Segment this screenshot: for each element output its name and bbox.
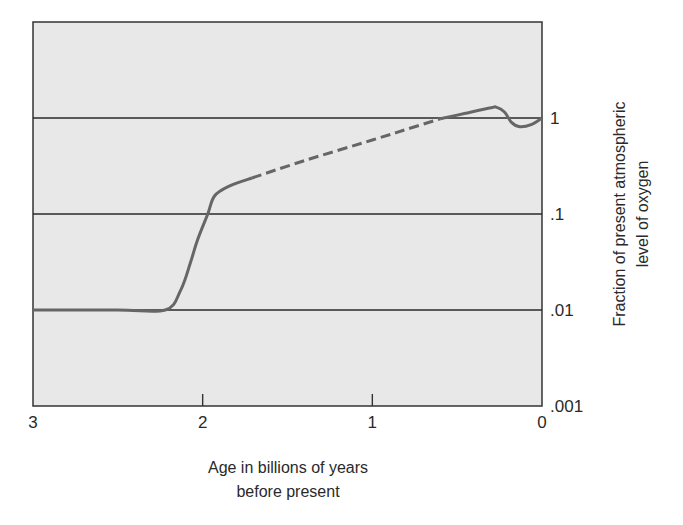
y-tick-label: 1 xyxy=(550,109,559,128)
oxygen-history-chart: 3210 1.1.01.001 Age in billions of years… xyxy=(0,0,683,525)
y-axis-title-line2: level of oxygen xyxy=(634,161,651,268)
x-tick-label: 1 xyxy=(368,413,377,432)
x-tick-label: 3 xyxy=(28,413,37,432)
y-axis-tick-labels: 1.1.01.001 xyxy=(550,109,583,416)
y-tick-label: .001 xyxy=(550,397,583,416)
y-axis-title-line1: Fraction of present atmospheric xyxy=(611,102,628,327)
x-axis-title-line1: Age in billions of years xyxy=(208,459,368,476)
x-tick-label: 2 xyxy=(198,413,207,432)
y-tick-label: .01 xyxy=(550,301,574,320)
x-tick-label: 0 xyxy=(537,413,546,432)
y-tick-label: .1 xyxy=(550,205,564,224)
x-axis-tick-labels: 3210 xyxy=(28,413,546,432)
x-axis-title-line2: before present xyxy=(236,483,340,500)
